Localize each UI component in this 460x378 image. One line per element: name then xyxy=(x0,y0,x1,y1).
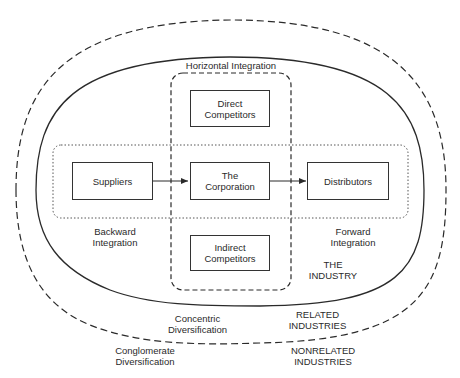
related-industries-label: RELATED INDUSTRIES xyxy=(280,309,355,331)
distributors-box: Distributors xyxy=(307,162,389,200)
direct-competitors-box: Direct Competitors xyxy=(190,90,270,127)
the-industry-label: THE INDUSTRY xyxy=(298,259,368,281)
forward-integration-label: Forward Integration xyxy=(318,226,388,248)
corporation-box: The Corporation xyxy=(190,162,270,200)
indirect-competitors-box: Indirect Competitors xyxy=(190,235,270,271)
conglomerate-diversification-label: Conglomerate Diversification xyxy=(100,345,190,367)
suppliers-box: Suppliers xyxy=(72,162,153,200)
concentric-diversification-label: Concentric Diversification xyxy=(150,313,245,335)
backward-integration-label: Backward Integration xyxy=(75,226,155,248)
nonrelated-industries-label: NONRELATED INDUSTRIES xyxy=(278,345,368,367)
horizontal-integration-label: Horizontal Integration xyxy=(170,60,292,71)
